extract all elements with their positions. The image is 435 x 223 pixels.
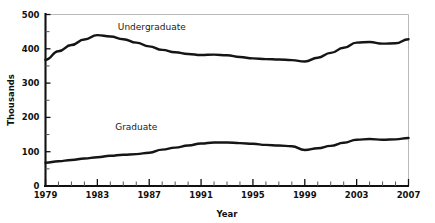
x-tick-label: 1987 [137, 190, 161, 200]
series-label-undergraduate: Undergraduate [118, 22, 186, 32]
x-tick-label: 2003 [345, 190, 369, 200]
x-tick-label: 1991 [189, 190, 213, 200]
x-tick-label: 1999 [293, 190, 317, 200]
x-tick-label: 1983 [86, 190, 110, 200]
chart-background [0, 0, 435, 223]
y-tick-label: 500 [22, 10, 40, 20]
chart-figure: 0100200300400500 19791983198719911995199… [0, 0, 435, 223]
y-tick-label: 100 [22, 147, 40, 157]
series-label-graduate: Graduate [115, 122, 158, 132]
y-tick-label: 300 [22, 78, 40, 88]
y-tick-label: 400 [22, 44, 40, 54]
x-tick-label: 1979 [34, 190, 58, 200]
y-tick-label: 200 [22, 112, 40, 122]
x-tick-label: 2007 [397, 190, 421, 200]
line-chart: 0100200300400500 19791983198719911995199… [0, 0, 435, 223]
y-axis-title: Thousands [6, 74, 16, 126]
x-tick-label: 1995 [241, 190, 265, 200]
x-axis-title: Year [215, 209, 238, 219]
